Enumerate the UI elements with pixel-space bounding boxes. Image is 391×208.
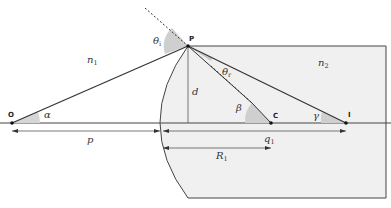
dim-p-arrow-left (12, 129, 18, 133)
point-p-dot (186, 44, 190, 48)
point-o-dot (10, 121, 14, 125)
angle-gamma-label: γ (313, 111, 319, 121)
medium-n1-label: n1 (87, 55, 98, 67)
point-c-dot (269, 121, 273, 125)
radius-r1-label: R1 (216, 151, 228, 163)
object-distance-p-label: p (87, 135, 93, 145)
point-p-label: P (189, 36, 194, 43)
point-i-dot (344, 121, 348, 125)
angle-beta-label: β (236, 103, 242, 113)
medium-n2-block (160, 46, 386, 198)
point-i-label: I (348, 112, 351, 119)
angle-theta-i-label: θi (153, 36, 161, 48)
dim-p-arrow-right (154, 129, 160, 133)
angle-alpha-label: α (44, 110, 51, 120)
diagram-canvas (0, 0, 391, 208)
point-c-label: C (273, 113, 278, 120)
angle-theta-i-wedge (164, 28, 188, 54)
point-o-label: O (8, 112, 14, 119)
medium-n2-label: n2 (318, 58, 329, 70)
height-d-label: d (192, 87, 198, 97)
angle-theta-r-label: θr (222, 67, 231, 79)
refraction-diagram: O P C I n1 n2 θi θr α β γ d p q1 R1 (0, 0, 391, 208)
image-distance-q1-label: q1 (264, 134, 275, 146)
